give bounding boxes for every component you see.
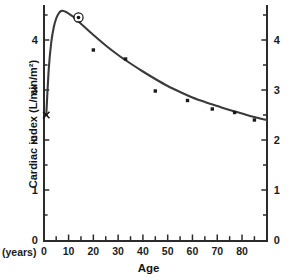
y-tick-label-right: 1 (274, 185, 297, 196)
x-tick-label: 80 (230, 246, 254, 257)
y-axis-title: Cardiac index (L/min/m²) (27, 49, 39, 199)
x-tick-label: 30 (106, 246, 130, 257)
y-tick-label-left: 0 (14, 235, 38, 246)
data-point (253, 118, 256, 121)
x-tick-label: 70 (205, 246, 229, 257)
x-axis-unit-label: (years) (2, 246, 36, 258)
data-point (154, 89, 157, 92)
x-axis-title: Age (0, 262, 297, 274)
data-point (211, 107, 214, 110)
x-tick-label: 40 (131, 246, 155, 257)
circled-dot-marker (74, 13, 83, 22)
x-tick-label: 20 (81, 246, 105, 257)
tick-marks (44, 15, 267, 240)
data-point (233, 111, 236, 114)
x-tick-label: 50 (156, 246, 180, 257)
cardiac-index-curve (46, 11, 267, 120)
data-point (92, 48, 95, 51)
chart-figure: 01234 01234 01020304050607080 (years) Ca… (0, 0, 297, 280)
data-point (186, 99, 189, 102)
data-point (124, 57, 127, 60)
x-tick-label: 10 (57, 246, 81, 257)
y-tick-label-right: 4 (274, 35, 297, 46)
y-tick-label-left: 4 (14, 35, 38, 46)
y-tick-label-right: 2 (274, 135, 297, 146)
y-tick-label-right: 0 (274, 235, 297, 246)
y-tick-label-right: 3 (274, 85, 297, 96)
plot-area (0, 0, 297, 280)
x-tick-label: 60 (180, 246, 204, 257)
